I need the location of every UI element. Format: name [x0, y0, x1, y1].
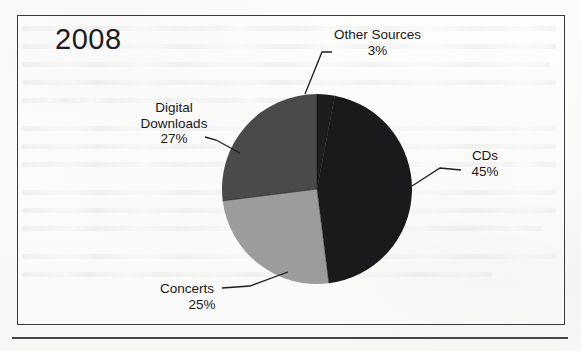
- pie-slice-concerts[interactable]: [223, 189, 329, 284]
- label-concerts-name: Concerts: [160, 281, 214, 296]
- chart-title: 2008: [55, 23, 122, 56]
- pie-slice-digital-downloads[interactable]: [222, 94, 317, 201]
- label-digital-downloads: Digital Downloads 27%: [128, 100, 220, 147]
- label-concerts: Concerts 25%: [160, 281, 244, 312]
- label-digital-downloads-line1: Digital: [155, 100, 193, 115]
- pie-slice-cds[interactable]: [317, 96, 412, 284]
- label-cds-percent: 45%: [463, 164, 507, 180]
- label-digital-downloads-percent: 27%: [128, 131, 220, 147]
- label-cds-name: CDs: [472, 148, 498, 163]
- label-other-sources: Other Sources 3%: [334, 27, 421, 58]
- leader-line-other-sources: [305, 52, 332, 94]
- label-other-sources-percent: 3%: [334, 43, 421, 59]
- label-digital-downloads-line2: Downloads: [128, 116, 220, 132]
- leader-line-cds: [412, 168, 461, 186]
- label-other-sources-name: Other Sources: [334, 27, 421, 42]
- label-cds: CDs 45%: [463, 148, 507, 179]
- label-concerts-percent: 25%: [160, 297, 244, 313]
